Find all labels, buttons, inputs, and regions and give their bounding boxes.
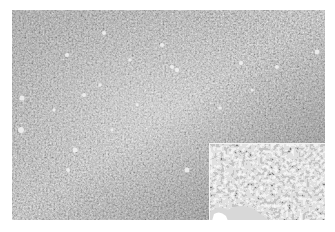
micrograph-inset (209, 143, 325, 220)
micrograph-main (12, 10, 325, 220)
inset-texture (210, 144, 325, 220)
